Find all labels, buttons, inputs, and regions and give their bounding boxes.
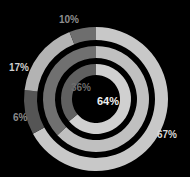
outer-segment-label-6: 6% [13, 113, 27, 123]
outer-ring-segment-6[interactable] [69, 27, 96, 44]
outer-segment-label-17: 17% [9, 63, 29, 73]
outer-segment-label-10: 10% [59, 15, 79, 25]
inner-segment-label-64: 64% [97, 96, 119, 107]
outer-ring-segment-10[interactable] [24, 90, 44, 134]
donut-chart-screenshot: 10% 17% 6% 67% 36% 64% [0, 0, 190, 177]
nested-donut-chart [0, 0, 190, 177]
inner-ring-group [61, 64, 131, 134]
middle-ring-group [43, 46, 149, 152]
inner-segment-label-36: 36% [71, 83, 91, 93]
outer-segment-label-67: 67% [157, 130, 177, 140]
